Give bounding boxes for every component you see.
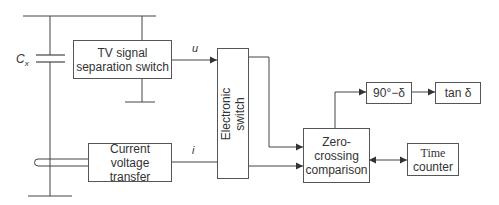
capacitor-label: Cx [16, 52, 29, 68]
current-transformer-loop [35, 159, 89, 166]
switch-output-1 [248, 57, 303, 147]
tan-delta-box: tan δ [435, 82, 481, 104]
phase-90-minus-delta-box: 90°−δ [366, 82, 412, 104]
electronic-switch-line2: switch [233, 87, 247, 140]
block-diagram: Cx TV signal separation switch u Current… [0, 0, 499, 205]
phase-label: 90°−δ [373, 86, 405, 100]
zc-to-phase-arrow [335, 92, 366, 128]
tv-signal-separation-switch-box: TV signal separation switch [73, 40, 172, 79]
time-counter-box: Time counter [407, 143, 459, 176]
tv-switch-line2: separation switch [76, 60, 169, 74]
electronic-switch-box: Electronic switch [217, 48, 249, 179]
current-transfer-line1: Current [89, 142, 171, 156]
u-signal-label: u [192, 42, 198, 54]
zero-crossing-line2: comparison [304, 163, 369, 177]
time-counter-line2: counter [413, 160, 453, 174]
tan-label: tan δ [445, 86, 472, 100]
zero-crossing-comparison-box: Zero-crossing comparison [303, 128, 370, 183]
current-voltage-transfer-box: Current voltage transfer [88, 143, 172, 182]
i-signal-label: i [192, 144, 194, 156]
time-counter-line1: Time [413, 146, 453, 160]
current-transfer-line2: voltage transfer [89, 156, 171, 184]
tv-switch-line1: TV signal [76, 46, 169, 60]
electronic-switch-line1: Electronic [219, 87, 233, 140]
zero-crossing-line1: Zero-crossing [304, 135, 369, 163]
